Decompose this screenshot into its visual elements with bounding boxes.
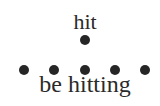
top-dot-icon — [80, 35, 90, 45]
top-word: hit — [0, 11, 160, 33]
bottom-word: be hitting — [0, 72, 160, 96]
